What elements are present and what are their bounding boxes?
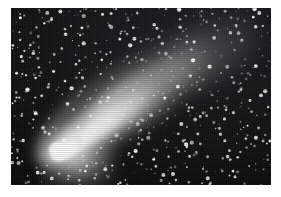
image-canvas [0,0,281,197]
comet-photograph [11,8,271,185]
night-sky-background [11,8,271,185]
